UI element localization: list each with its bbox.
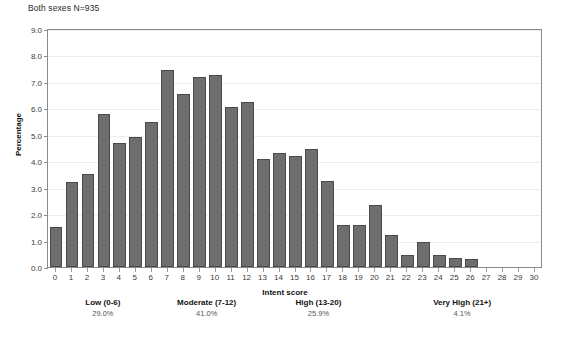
bar [401,255,414,267]
bar [177,94,190,267]
bar [193,77,206,267]
bar [161,70,174,267]
y-tick-label: 6.0 [31,105,42,114]
x-tick-label: 6 [149,273,153,282]
x-tick-mark [55,268,56,272]
x-tick-mark [406,268,407,272]
y-tick-label: 4.0 [31,158,42,167]
x-tick-label: 28 [498,273,507,282]
x-tick-mark [135,268,136,272]
bar [50,227,63,267]
x-tick-mark [518,268,519,272]
bar [385,235,398,267]
category-label: Moderate (7-12) [177,297,236,308]
bar [289,156,302,267]
y-tick-mark [44,268,48,269]
x-tick-label: 26 [466,273,475,282]
x-tick-mark [263,268,264,272]
x-tick-label: 10 [210,273,219,282]
x-tick-mark [438,268,439,272]
x-tick-label: 24 [434,273,443,282]
category-percent: 4.1% [433,308,491,319]
x-tick-label: 20 [370,273,379,282]
x-tick-label: 12 [242,273,251,282]
category-percent: 41.0% [177,308,236,319]
x-tick-mark [215,268,216,272]
x-tick-mark [71,268,72,272]
x-tick-label: 25 [450,273,459,282]
y-tick-label: 8.0 [31,52,42,61]
x-tick-mark [295,268,296,272]
category-label: High (13-20) [296,297,342,308]
x-tick-mark [247,268,248,272]
bar [82,174,95,267]
x-tick-mark [454,268,455,272]
x-tick-label: 29 [514,273,523,282]
x-tick-label: 8 [180,273,184,282]
x-tick-label: 5 [133,273,137,282]
x-tick-label: 22 [402,273,411,282]
x-tick-mark [390,268,391,272]
chart-figure: Both sexes N=935 Percentage 0.01.02.03.0… [0,0,570,340]
category-percent: 25.9% [296,308,342,319]
x-tick-label: 19 [354,273,363,282]
x-tick-mark [103,268,104,272]
bar [321,181,334,267]
x-axis-title: Intent score [0,288,570,297]
bar [305,149,318,267]
x-tick-mark [422,268,423,272]
x-tick-label: 21 [386,273,395,282]
bar [209,75,222,267]
x-tick-label: 11 [226,273,234,282]
x-tick-label: 14 [274,273,283,282]
x-tick-mark [119,268,120,272]
x-tick-mark [374,268,375,272]
x-tick-mark [470,268,471,272]
bar [417,242,430,267]
x-tick-label: 1 [69,273,73,282]
x-tick-mark [199,268,200,272]
category-annotation: Low (0-6)29.0% [85,297,120,319]
y-tick-label: 7.0 [31,78,42,87]
category-percent: 29.0% [85,308,120,319]
bar [113,143,126,267]
bar [369,205,382,267]
x-tick-mark [502,268,503,272]
category-annotation: High (13-20)25.9% [296,297,342,319]
x-tick-mark [231,268,232,272]
category-label: Low (0-6) [85,297,120,308]
x-tick-mark [534,268,535,272]
x-tick-label: 27 [482,273,491,282]
bar [465,259,478,267]
bar [449,258,462,267]
y-tick-label: 9.0 [31,26,42,35]
x-tick-mark [183,268,184,272]
x-tick-mark [151,268,152,272]
x-tick-mark [486,268,487,272]
x-tick-mark [326,268,327,272]
x-tick-mark [310,268,311,272]
bar [98,114,111,267]
x-tick-label: 9 [196,273,200,282]
category-annotation: Moderate (7-12)41.0% [177,297,236,319]
bar [353,225,366,267]
x-tick-mark [167,268,168,272]
x-tick-mark [358,268,359,272]
x-tick-mark [279,268,280,272]
x-tick-label: 18 [338,273,347,282]
y-tick-label: 2.0 [31,211,42,220]
x-tick-label: 23 [418,273,427,282]
bar [241,102,254,267]
bar [145,122,158,267]
bar [257,159,270,267]
x-tick-label: 13 [258,273,267,282]
x-tick-mark [342,268,343,272]
bar [337,225,350,267]
category-label: Very High (21+) [433,297,491,308]
x-tick-label: 16 [306,273,315,282]
bar [433,255,446,267]
x-tick-mark [87,268,88,272]
x-tick-label: 4 [117,273,121,282]
y-tick-label: 5.0 [31,131,42,140]
bar [225,107,238,267]
